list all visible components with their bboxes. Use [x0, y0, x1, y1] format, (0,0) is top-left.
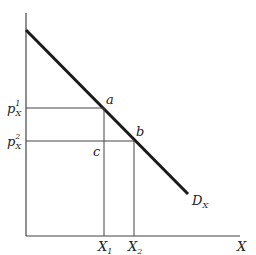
point-label-a: a: [106, 92, 114, 107]
demand-curve-label: DX: [191, 193, 208, 210]
x-axis-label: X: [236, 239, 247, 254]
demand-diagram: p1X p2X a b c X1 X2 X DX: [0, 0, 256, 255]
quantity-label-1: X1: [97, 239, 112, 255]
point-label-c: c: [93, 144, 101, 159]
quantity-label-2: X2: [127, 239, 142, 255]
demand-curve: [26, 30, 188, 194]
price-label-1: p1X: [7, 99, 21, 118]
point-label-b: b: [136, 124, 144, 139]
price-label-2: p2X: [7, 132, 21, 151]
